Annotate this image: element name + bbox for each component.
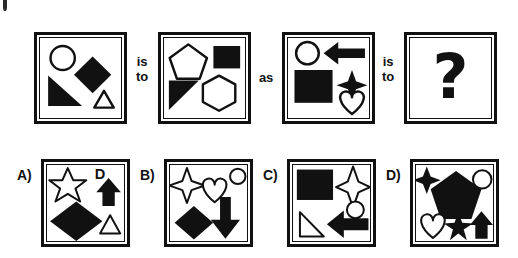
connector-is-to-2-line1: is bbox=[374, 54, 402, 69]
option-a-panel[interactable]: D bbox=[41, 159, 130, 247]
prompt-panel-4-inner: ? bbox=[409, 37, 492, 119]
letter-d-glyph: D bbox=[95, 166, 106, 182]
option-b-canvas bbox=[170, 165, 247, 241]
option-c-canvas bbox=[293, 165, 370, 241]
connector-as: as bbox=[252, 70, 280, 85]
option-b-panel[interactable] bbox=[164, 159, 253, 247]
connector-is-to-1-line2: to bbox=[128, 69, 156, 84]
scan-artifact bbox=[3, 0, 7, 11]
prompt-panel-3-inner bbox=[287, 37, 370, 119]
option-a-label: A) bbox=[17, 168, 32, 182]
option-d-label: D) bbox=[386, 168, 401, 182]
connector-as-text: as bbox=[252, 70, 280, 85]
prompt-panel-4-unknown: ? bbox=[404, 32, 497, 124]
option-b-inner bbox=[169, 164, 248, 242]
question-mark-glyph: ? bbox=[410, 38, 491, 118]
option-a-canvas: D bbox=[47, 165, 124, 241]
option-d-inner bbox=[415, 164, 494, 242]
option-c-label: C) bbox=[263, 168, 278, 182]
prompt-panel-3-canvas bbox=[288, 38, 369, 118]
option-d-panel[interactable] bbox=[410, 159, 499, 247]
option-d-canvas bbox=[416, 165, 493, 241]
prompt-panel-1-inner bbox=[39, 37, 122, 119]
connector-is-to-2-line2: to bbox=[374, 69, 402, 84]
prompt-panel-2-inner bbox=[163, 37, 246, 119]
prompt-panel-1 bbox=[34, 32, 127, 124]
prompt-panel-3 bbox=[282, 32, 375, 124]
connector-is-to-1-line1: is bbox=[128, 54, 156, 69]
option-a-inner: D bbox=[46, 164, 125, 242]
connector-is-to-2: is to bbox=[374, 54, 402, 84]
connector-is-to-1: is to bbox=[128, 54, 156, 84]
option-c-inner bbox=[292, 164, 371, 242]
prompt-panel-2 bbox=[158, 32, 251, 124]
prompt-panel-2-canvas bbox=[164, 38, 245, 118]
option-c-panel[interactable] bbox=[287, 159, 376, 247]
prompt-panel-1-canvas bbox=[40, 38, 121, 118]
option-b-label: B) bbox=[140, 168, 155, 182]
